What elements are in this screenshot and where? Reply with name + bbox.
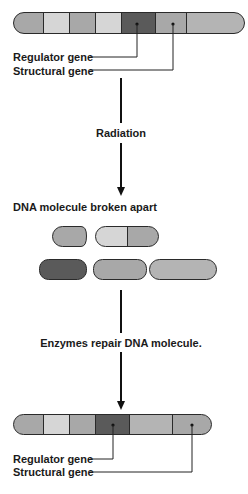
repaired-dna-molecule: Regulator gene Structural gene <box>13 414 213 478</box>
segment-4 <box>95 12 121 34</box>
segment-5 <box>129 414 172 435</box>
broken-apart-label: DNA molecule broken apart <box>13 201 157 213</box>
top-regulator-label: Regulator gene <box>13 51 93 63</box>
segment-3 <box>69 12 95 34</box>
arrow-head-icon <box>117 187 125 196</box>
fragment-3 <box>40 260 87 280</box>
fragment-5 <box>150 260 217 280</box>
fragment-1 <box>53 227 87 247</box>
original-dna-molecule: Regulator gene Structural gene <box>13 12 246 77</box>
bottom-structural-label: Structural gene <box>13 466 94 478</box>
segment-2 <box>43 414 69 435</box>
arrow-repair: Enzymes repair DNA molecule. <box>40 290 202 410</box>
arrow-radiation: Radiation <box>96 78 146 196</box>
fragment-4 <box>94 260 147 280</box>
dna-repair-diagram: Regulator gene Structural gene Radiation… <box>0 0 248 494</box>
repair-label: Enzymes repair DNA molecule. <box>40 337 202 349</box>
segment-7 <box>186 12 246 34</box>
top-structural-label: Structural gene <box>13 65 94 77</box>
structural-gene-segment <box>155 12 186 34</box>
fragment-2 <box>96 227 159 247</box>
radiation-label: Radiation <box>96 127 146 139</box>
segment-2 <box>43 12 69 34</box>
arrow-head-icon <box>117 401 125 410</box>
segment-3 <box>69 414 95 435</box>
dna-fragments <box>40 227 217 280</box>
bottom-regulator-label: Regulator gene <box>13 453 93 465</box>
segment-1 <box>13 414 43 435</box>
